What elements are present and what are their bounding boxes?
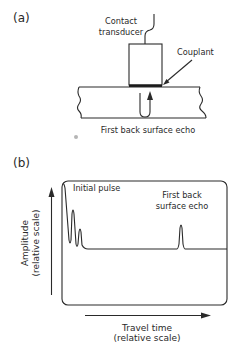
panel-b-label: (b) xyxy=(13,156,30,170)
ultrasonic-testing-diagram: (a) Contact transducer Couplant First ba… xyxy=(0,0,244,342)
transducer-cable xyxy=(145,14,154,44)
travel-time-axis-arrowhead xyxy=(201,313,211,319)
amplitude-axis-label: Amplitude (relative scale) xyxy=(20,209,41,276)
panel-a: (a) Contact transducer Couplant First ba… xyxy=(13,11,215,139)
travel-time-axis-label-line2: (relative scale) xyxy=(113,333,180,342)
test-plate xyxy=(78,87,207,118)
amplitude-axis-label-line2: (relative scale) xyxy=(31,209,41,276)
echo-arrowhead xyxy=(147,91,153,100)
transducer-label-line2: transducer xyxy=(99,27,144,37)
back-echo-label-line2: surface echo xyxy=(156,201,209,211)
signal-trace xyxy=(63,184,227,249)
plate-right-break xyxy=(199,87,206,118)
transducer-label-line1: Contact xyxy=(105,16,138,26)
initial-pulse-label: Initial pulse xyxy=(73,183,120,193)
couplant-pointer-line xyxy=(166,60,192,82)
amplitude-axis-label-line1: Amplitude xyxy=(20,219,30,266)
amplitude-axis-arrowhead xyxy=(49,187,55,197)
artifact-dot xyxy=(74,135,78,139)
panel-a-label: (a) xyxy=(13,11,30,25)
display-frame xyxy=(62,181,227,305)
back-echo-label-line1: First back xyxy=(162,190,202,200)
plate-left-break xyxy=(78,87,82,118)
contact-transducer xyxy=(129,44,162,85)
echo-label: First back surface echo xyxy=(101,125,196,135)
couplant-label: Couplant xyxy=(177,47,215,57)
panel-b: (b) Initial pulse First back surface ech… xyxy=(13,156,227,342)
travel-time-axis-label-line1: Travel time xyxy=(121,323,172,333)
